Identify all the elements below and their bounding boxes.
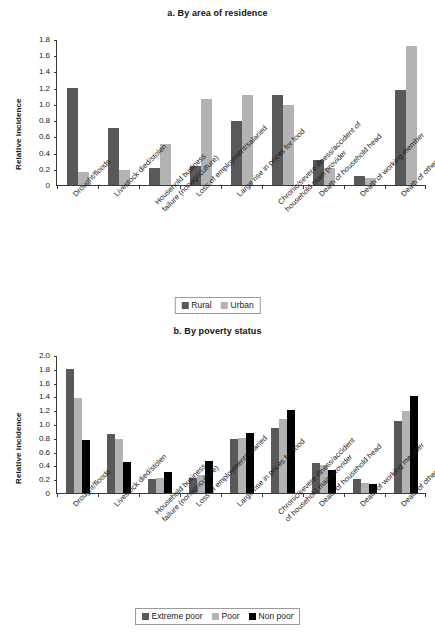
legend-swatch-icon <box>181 302 188 309</box>
legend-swatch-icon <box>142 613 149 620</box>
y-tick-mark <box>54 453 57 454</box>
y-tick-mark <box>54 105 57 106</box>
chart-b-y-tick-labels: 2.01.81.61.41.21.00.80.60.40.20 <box>14 356 50 494</box>
y-tick-label: 1.6 <box>39 52 50 60</box>
x-tick-mark <box>344 493 345 497</box>
bar <box>108 128 119 185</box>
x-tick-mark <box>262 493 263 497</box>
bar <box>354 176 365 185</box>
bar <box>164 472 172 493</box>
x-tick-mark <box>221 185 222 189</box>
legend-swatch-icon <box>212 613 219 620</box>
y-tick-label: 2.0 <box>39 352 50 360</box>
y-tick-label: 0.8 <box>39 117 50 125</box>
chart-b-x-tick-labels: Drought/floodsLivestock died/stolenHouse… <box>0 500 435 600</box>
bar <box>394 421 402 493</box>
y-tick-mark <box>54 480 57 481</box>
x-tick-mark <box>385 185 386 189</box>
chart-a-x-tick-labels: Drought/floodsLivestock died/stolenHouse… <box>0 190 435 290</box>
x-tick-mark <box>344 185 345 189</box>
chart-panel-b: b. By poverty status Relative incidence … <box>0 320 435 635</box>
y-tick-label: 0.6 <box>39 449 50 457</box>
legend-label: Extreme poor <box>152 611 203 621</box>
legend-item: Rural <box>181 300 211 310</box>
chart-a-y-tick-labels: 1.81.61.41.21.00.80.60.40.20 <box>14 40 50 185</box>
y-tick-label: 0 <box>46 490 50 498</box>
y-tick-mark <box>54 356 57 357</box>
legend-swatch-icon <box>249 613 256 620</box>
y-tick-label: 0 <box>46 182 50 190</box>
y-tick-mark <box>54 411 57 412</box>
legend-label: Rural <box>191 300 211 310</box>
x-tick-mark <box>139 493 140 497</box>
bar <box>353 479 361 493</box>
legend-item: Non poor <box>249 611 294 621</box>
x-tick-mark <box>425 493 426 497</box>
y-tick-mark <box>54 397 57 398</box>
chart-a-plot: Relative incidence 1.81.61.41.21.00.80.6… <box>0 18 435 188</box>
chart-b-legend: Extreme poorPoorNon poor <box>135 608 301 625</box>
y-tick-mark <box>54 154 57 155</box>
y-tick-label: 1.8 <box>39 36 50 44</box>
x-tick-mark <box>57 493 58 497</box>
chart-b-title: b. By poverty status <box>0 320 435 336</box>
legend-swatch-icon <box>221 302 228 309</box>
bar <box>272 95 283 185</box>
x-tick-mark <box>425 185 426 189</box>
chart-a-legend: RuralUrban <box>174 297 260 314</box>
figure-page: a. By area of residence Relative inciden… <box>0 0 435 635</box>
y-tick-mark <box>54 40 57 41</box>
legend-item: Extreme poor <box>142 611 203 621</box>
y-tick-label: 1.2 <box>39 407 50 415</box>
y-tick-mark <box>54 89 57 90</box>
y-tick-label: 0.2 <box>39 166 50 174</box>
legend-label: Urban <box>231 300 254 310</box>
y-tick-mark <box>54 439 57 440</box>
x-tick-mark <box>57 185 58 189</box>
bar <box>66 369 74 493</box>
y-tick-label: 1.0 <box>39 421 50 429</box>
y-tick-label: 1.4 <box>39 393 50 401</box>
bar <box>74 398 82 493</box>
bar-group <box>57 40 98 185</box>
y-tick-mark <box>54 137 57 138</box>
bar <box>406 46 417 186</box>
x-tick-mark <box>385 493 386 497</box>
y-tick-mark <box>54 121 57 122</box>
x-tick-mark <box>221 493 222 497</box>
x-tick-mark <box>262 185 263 189</box>
y-tick-label: 1.6 <box>39 380 50 388</box>
y-tick-label: 0.6 <box>39 133 50 141</box>
chart-a-title: a. By area of residence <box>0 0 435 18</box>
y-tick-mark <box>54 425 57 426</box>
bar <box>115 439 123 493</box>
legend-label: Non poor <box>259 611 294 621</box>
y-tick-mark <box>54 170 57 171</box>
y-tick-label: 1.2 <box>39 85 50 93</box>
bar <box>149 168 160 185</box>
y-tick-label: 0.4 <box>39 462 50 470</box>
y-tick-label: 1.8 <box>39 366 50 374</box>
legend-item: Poor <box>212 611 240 621</box>
legend-item: Urban <box>221 300 254 310</box>
bar <box>156 478 164 493</box>
y-tick-mark <box>54 384 57 385</box>
chart-panel-a: a. By area of residence Relative inciden… <box>0 0 435 320</box>
x-tick-mark <box>98 185 99 189</box>
bar <box>395 90 406 185</box>
y-tick-mark <box>54 72 57 73</box>
x-tick-mark <box>139 185 140 189</box>
y-tick-mark <box>54 56 57 57</box>
y-tick-label: 0.2 <box>39 476 50 484</box>
y-tick-mark <box>54 466 57 467</box>
bar <box>67 88 78 185</box>
y-tick-label: 0.8 <box>39 435 50 443</box>
y-tick-label: 1.0 <box>39 101 50 109</box>
y-tick-mark <box>54 370 57 371</box>
legend-label: Poor <box>222 611 240 621</box>
x-tick-mark <box>98 493 99 497</box>
bar <box>148 479 156 493</box>
y-tick-label: 1.4 <box>39 68 50 76</box>
y-tick-label: 0.4 <box>39 150 50 158</box>
bar <box>107 434 115 493</box>
